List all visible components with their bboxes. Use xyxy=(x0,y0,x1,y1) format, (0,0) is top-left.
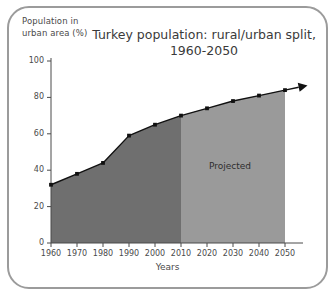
data-point-marker xyxy=(101,161,105,165)
y-tick-label: 40 xyxy=(17,165,44,174)
chart-figure: Population in urban area (%) Turkey popu… xyxy=(0,0,335,295)
data-point-marker xyxy=(75,172,79,176)
trend-arrow-icon xyxy=(285,83,308,92)
data-point-marker xyxy=(127,134,131,138)
y-tick-label: 80 xyxy=(17,92,44,101)
data-point-marker xyxy=(179,114,183,118)
data-point-marker xyxy=(49,183,53,187)
y-tick-label: 20 xyxy=(17,202,44,211)
data-point-marker xyxy=(231,99,235,103)
x-tick-label: 2050 xyxy=(270,249,300,258)
projected-annotation: Projected xyxy=(209,161,251,171)
x-axis-label: Years xyxy=(0,262,335,272)
data-point-marker xyxy=(257,94,261,98)
arrow-shaft xyxy=(285,87,299,90)
y-tick-label: 60 xyxy=(17,129,44,138)
data-point-marker xyxy=(153,123,157,127)
y-tick-label: 0 xyxy=(17,238,44,247)
area-region-historical xyxy=(51,116,181,243)
data-point-marker xyxy=(205,106,209,110)
arrow-head xyxy=(298,83,308,92)
y-tick-label: 100 xyxy=(17,56,44,65)
